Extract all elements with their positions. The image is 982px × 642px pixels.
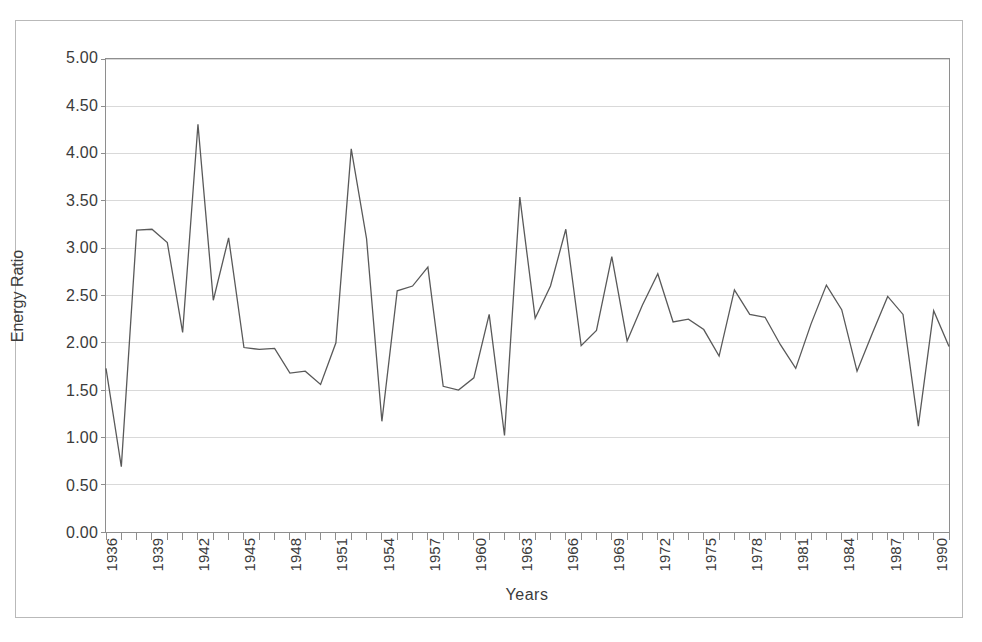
- series-line-energy-ratio: [106, 124, 949, 466]
- plot-area: [105, 58, 950, 533]
- y-tick-label: 3.50: [66, 192, 98, 210]
- x-tick-label: 1951: [333, 538, 350, 571]
- y-tick-label: 5.00: [66, 49, 98, 67]
- x-tick-label: 1957: [425, 538, 442, 571]
- x-tick-label: 1984: [840, 538, 857, 571]
- x-tick-label: 1975: [702, 538, 719, 571]
- x-tick-label: 1945: [241, 538, 258, 571]
- x-tick-label: 1978: [748, 538, 765, 571]
- x-tick-label: 1981: [794, 538, 811, 571]
- y-tick-label: 2.50: [66, 287, 98, 305]
- x-tick-label: 1969: [610, 538, 627, 571]
- chart-figure: Energy Ratio 0.000.501.001.502.002.503.0…: [0, 0, 982, 642]
- x-tick-label: 1960: [471, 538, 488, 571]
- data-series-line: [106, 59, 949, 532]
- x-tick-label: 1954: [379, 538, 396, 571]
- x-tick-label: 1936: [103, 538, 120, 571]
- x-axis-tick-labels: 1936193919421945194819511954195719601963…: [105, 538, 950, 588]
- x-axis-title: Years: [506, 586, 549, 604]
- y-tick-label: 3.00: [66, 239, 98, 257]
- x-tick-label: 1990: [932, 538, 949, 571]
- y-tick-label: 4.50: [66, 97, 98, 115]
- x-tick-label: 1966: [563, 538, 580, 571]
- y-axis-tick-labels: 0.000.501.001.502.002.503.003.504.004.50…: [30, 58, 98, 533]
- y-tick-label: 2.00: [66, 334, 98, 352]
- x-tick-label: 1972: [656, 538, 673, 571]
- y-tick-label: 1.00: [66, 429, 98, 447]
- y-tick-label: 0.00: [66, 524, 98, 542]
- x-tick-label: 1942: [195, 538, 212, 571]
- y-tick-label: 1.50: [66, 382, 98, 400]
- y-axis-title: Energy Ratio: [9, 250, 27, 343]
- x-tick-label: 1948: [287, 538, 304, 571]
- y-tick-label: 4.00: [66, 144, 98, 162]
- x-tick-label: 1987: [886, 538, 903, 571]
- x-tick-label: 1963: [517, 538, 534, 571]
- x-tick-label: 1939: [149, 538, 166, 571]
- y-tick-label: 0.50: [66, 477, 98, 495]
